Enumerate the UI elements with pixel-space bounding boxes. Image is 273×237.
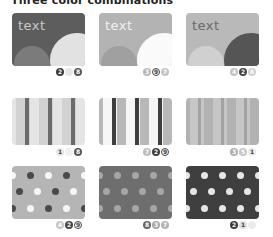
color-number-badge: 7 bbox=[161, 221, 169, 229]
color-number-badge: 8 bbox=[74, 148, 82, 156]
color-number-badge: 7 bbox=[161, 68, 169, 76]
polka-dot bbox=[12, 205, 16, 212]
polka-dot bbox=[99, 205, 103, 212]
polka-dot bbox=[34, 188, 41, 195]
dark-stripe bbox=[112, 98, 116, 145]
color-number-badge: 2 bbox=[230, 221, 238, 229]
badge-group: 426 bbox=[230, 68, 256, 76]
color-number-badge: 1 bbox=[239, 221, 247, 229]
polka-dot bbox=[201, 205, 208, 212]
polka-dot bbox=[157, 188, 164, 195]
polka-dot bbox=[208, 188, 215, 195]
polka-dot bbox=[186, 172, 190, 179]
color-number-badge: 9 bbox=[152, 68, 160, 76]
polka-dot bbox=[63, 205, 70, 212]
combo-card-2: text bbox=[99, 13, 172, 66]
polka-dot bbox=[132, 205, 139, 212]
light-stripe bbox=[190, 98, 204, 145]
dark-stripe bbox=[135, 98, 139, 145]
polka-dot bbox=[45, 172, 52, 179]
polka-dot bbox=[150, 205, 157, 212]
polka-dot bbox=[99, 172, 103, 179]
polka-dot bbox=[121, 188, 128, 195]
dark-stripe bbox=[198, 98, 201, 145]
badge-group: 21 bbox=[230, 221, 256, 229]
badge-group: 18 bbox=[56, 148, 82, 156]
polka-dot bbox=[70, 188, 77, 195]
color-number-badge: 4 bbox=[56, 221, 64, 229]
polka-dot bbox=[16, 188, 23, 195]
small-circle bbox=[14, 46, 50, 66]
light-stripe bbox=[213, 98, 227, 145]
color-number-badge: 2 bbox=[152, 148, 160, 156]
badge-group: 351 bbox=[230, 148, 256, 156]
small-circle bbox=[188, 46, 224, 66]
color-number-badge: 1 bbox=[56, 148, 64, 156]
color-number-badge: 6 bbox=[248, 68, 256, 76]
polka-dot bbox=[255, 205, 259, 212]
color-number-badge bbox=[248, 221, 256, 229]
polka-dot bbox=[168, 205, 172, 212]
color-number-badge: 8 bbox=[74, 68, 82, 76]
color-number-badge: 9 bbox=[161, 148, 169, 156]
combo-card-4 bbox=[12, 98, 85, 145]
badge-group: 837 bbox=[143, 221, 169, 229]
dark-stripe bbox=[71, 98, 75, 145]
combo-card-1: text bbox=[12, 13, 85, 66]
polka-dot bbox=[114, 172, 121, 179]
polka-dot bbox=[226, 188, 233, 195]
dark-stripe bbox=[25, 98, 29, 145]
sample-text: text bbox=[105, 18, 133, 33]
combo-card-7 bbox=[12, 166, 85, 219]
combo-card-3: text bbox=[186, 13, 259, 66]
color-number-badge: 2 bbox=[65, 221, 73, 229]
color-number-badge: 3 bbox=[230, 148, 238, 156]
color-number-badge: 1 bbox=[248, 148, 256, 156]
sample-text: text bbox=[18, 18, 46, 33]
color-number-badge: 8 bbox=[143, 221, 151, 229]
polka-dot bbox=[114, 205, 121, 212]
color-number-badge: 3 bbox=[143, 68, 151, 76]
badge-group: 397 bbox=[143, 68, 169, 76]
polka-dot bbox=[219, 205, 226, 212]
polka-dot bbox=[12, 172, 16, 179]
polka-dot bbox=[237, 205, 244, 212]
polka-dot bbox=[190, 188, 197, 195]
small-circle bbox=[101, 46, 137, 66]
color-number-badge: 7 bbox=[143, 148, 151, 156]
badge-group: 429 bbox=[56, 221, 82, 229]
combo-card-6 bbox=[186, 98, 259, 145]
polka-dot bbox=[81, 205, 85, 212]
polka-dot bbox=[132, 172, 139, 179]
combo-card-9 bbox=[186, 166, 259, 219]
light-stripe bbox=[236, 98, 250, 145]
polka-dot bbox=[63, 172, 70, 179]
dark-stripe bbox=[221, 98, 224, 145]
color-number-badge: 5 bbox=[239, 148, 247, 156]
color-number-badge: 3 bbox=[152, 221, 160, 229]
polka-dot bbox=[201, 172, 208, 179]
big-circle bbox=[137, 33, 172, 66]
polka-dot bbox=[103, 188, 110, 195]
polka-dot bbox=[150, 172, 157, 179]
page-title: Three color combinations bbox=[11, 0, 173, 7]
dark-stripe bbox=[158, 98, 162, 145]
color-number-badge: 2 bbox=[239, 68, 247, 76]
polka-dot bbox=[186, 205, 190, 212]
color-number-badge: 9 bbox=[74, 221, 82, 229]
polka-dot bbox=[244, 188, 251, 195]
polka-dot bbox=[255, 172, 259, 179]
color-number-badge: 4 bbox=[230, 68, 238, 76]
polka-dot bbox=[27, 172, 34, 179]
sample-text: text bbox=[192, 18, 220, 33]
color-number-badge: 2 bbox=[56, 68, 64, 76]
big-circle bbox=[224, 33, 259, 66]
combo-card-5 bbox=[99, 98, 172, 145]
combo-card-8 bbox=[99, 166, 172, 219]
color-number-badge bbox=[65, 68, 73, 76]
badge-group: 28 bbox=[56, 68, 82, 76]
polka-dot bbox=[27, 205, 34, 212]
polka-dot bbox=[45, 205, 52, 212]
polka-dot bbox=[219, 172, 226, 179]
polka-dot bbox=[81, 172, 85, 179]
